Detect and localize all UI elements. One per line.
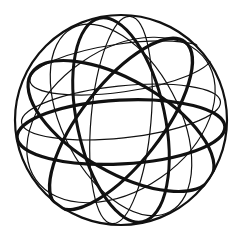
thick-equator-line <box>15 95 226 170</box>
sphere-icon <box>0 0 238 233</box>
outline-line <box>15 15 227 225</box>
thin-meridian-a-line <box>82 14 160 226</box>
wireframe-sphere-illustration <box>0 0 238 233</box>
